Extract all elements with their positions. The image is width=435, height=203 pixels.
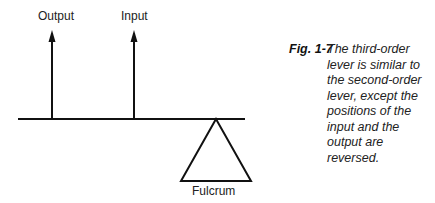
fulcrum-label: Fulcrum [192, 184, 235, 198]
output-label: Output [38, 9, 74, 23]
input-arrow [131, 30, 138, 120]
fulcrum-triangle [181, 119, 251, 181]
input-label: Input [121, 9, 148, 23]
output-arrow [49, 30, 56, 120]
figure-caption: The third-order lever is similar to the … [327, 42, 435, 166]
